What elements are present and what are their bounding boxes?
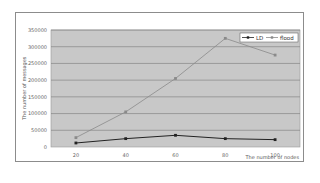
data-point-marker xyxy=(224,37,227,40)
data-point-marker xyxy=(174,77,177,80)
data-point-marker xyxy=(274,54,277,57)
data-point-marker xyxy=(224,137,227,140)
line-chart: 0500001000001500002000002500003000003500… xyxy=(0,0,320,183)
data-point-marker xyxy=(75,136,78,139)
y-axis-label: The number of messages xyxy=(21,56,28,121)
y-tick-label: 50000 xyxy=(31,127,47,133)
y-tick-label: 100000 xyxy=(28,110,47,116)
data-point-marker xyxy=(124,111,127,114)
data-point-marker xyxy=(75,142,78,145)
legend: LD flood xyxy=(240,33,298,42)
x-axis-label: The number of nodes xyxy=(245,154,300,160)
x-tick-label: 40 xyxy=(123,152,129,158)
data-point-marker xyxy=(174,134,177,137)
y-tick-label: 250000 xyxy=(28,60,47,66)
y-axis-ticks: 0500001000001500002000002500003000003500… xyxy=(28,27,47,150)
flood-marker-icon xyxy=(271,36,273,38)
legend-flood-label: flood xyxy=(280,35,294,41)
y-tick-label: 350000 xyxy=(28,27,47,33)
ld-marker-icon xyxy=(247,36,249,38)
y-tick-label: 0 xyxy=(44,144,47,150)
x-tick-label: 60 xyxy=(172,152,178,158)
y-tick-label: 200000 xyxy=(28,77,47,83)
y-tick-label: 300000 xyxy=(28,44,47,50)
x-tick-label: 80 xyxy=(222,152,228,158)
plot-area xyxy=(51,30,300,147)
x-tick-label: 20 xyxy=(73,152,79,158)
data-point-marker xyxy=(274,138,277,141)
legend-ld-label: LD xyxy=(256,35,263,41)
y-tick-label: 150000 xyxy=(28,94,47,100)
data-point-marker xyxy=(124,137,127,140)
